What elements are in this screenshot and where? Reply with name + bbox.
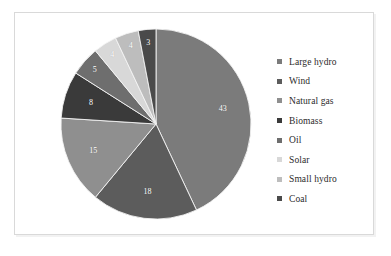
legend-item-label: Coal bbox=[289, 194, 307, 204]
legend: Large hydroWindNatural gasBiomassOilSola… bbox=[277, 52, 377, 209]
legend-item[interactable]: Solar bbox=[277, 150, 377, 170]
legend-swatch-icon bbox=[277, 138, 282, 143]
pie-slice-value: 43 bbox=[219, 105, 227, 113]
legend-item[interactable]: Wind bbox=[277, 72, 377, 92]
legend-item[interactable]: Natural gas bbox=[277, 91, 377, 111]
legend-swatch-icon bbox=[277, 157, 282, 162]
legend-item-label: Small hydro bbox=[289, 174, 337, 184]
pie-slice-value: 3 bbox=[146, 39, 150, 47]
pie-slice-value: 5 bbox=[93, 66, 97, 74]
legend-item-label: Biomass bbox=[289, 116, 322, 126]
legend-item-label: Natural gas bbox=[289, 96, 334, 106]
legend-swatch-icon bbox=[277, 118, 282, 123]
legend-item[interactable]: Biomass bbox=[277, 111, 377, 131]
legend-item-label: Solar bbox=[289, 155, 310, 165]
pie-slices bbox=[61, 29, 251, 219]
legend-swatch-icon bbox=[277, 177, 282, 182]
pie-svg bbox=[58, 26, 254, 222]
pie-slice-value: 4 bbox=[129, 42, 133, 50]
legend-item-label: Wind bbox=[289, 76, 310, 86]
pie-slice-value: 4 bbox=[110, 51, 114, 59]
legend-item-label: Oil bbox=[289, 135, 301, 145]
legend-item[interactable]: Oil bbox=[277, 130, 377, 150]
pie-slice-value: 18 bbox=[143, 188, 151, 196]
pie-slice-value: 8 bbox=[89, 99, 93, 107]
legend-item[interactable]: Large hydro bbox=[277, 52, 377, 72]
legend-swatch-icon bbox=[277, 59, 282, 64]
legend-swatch-icon bbox=[277, 196, 282, 201]
legend-item[interactable]: Small hydro bbox=[277, 170, 377, 190]
legend-item[interactable]: Coal bbox=[277, 189, 377, 209]
legend-swatch-icon bbox=[277, 98, 282, 103]
pie-slice-value: 15 bbox=[89, 147, 97, 155]
chart-page: 43181585443 Large hydroWindNatural gasBi… bbox=[0, 0, 391, 256]
legend-swatch-icon bbox=[277, 79, 282, 84]
legend-item-label: Large hydro bbox=[289, 57, 337, 67]
